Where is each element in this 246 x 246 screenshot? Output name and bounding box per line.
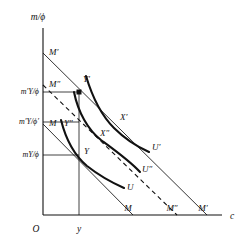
y-tick-label-mprime-Y-phi: m′Y/ϕ — [21, 87, 39, 96]
budget-line-label-M-prime: M′ — [197, 203, 208, 213]
y-axis-label: m/ϕ — [31, 12, 46, 22]
budget-line-M-prime-path — [43, 53, 207, 215]
y-tick-label-m-Y-phi: mY/ϕ — [22, 150, 39, 159]
point-label-Y-prime: Y′ — [83, 74, 91, 84]
x-axis-label: c — [230, 211, 235, 221]
x-tick-label-y: y — [76, 224, 82, 234]
diagram-canvas: m/ϕ c O m′Y/ϕ m′Y/ϕ′ mY/ϕ y M′ M″ M M M″… — [0, 0, 246, 246]
budget-line-M-path — [43, 124, 133, 215]
point-marker-Y-prime — [77, 90, 82, 95]
point-label-Y: Y — [84, 146, 90, 156]
curve-label-U-prime: U′ — [152, 142, 161, 152]
intercept-label-M: M — [48, 118, 57, 128]
budget-line-label-M-double-prime: M″ — [165, 203, 177, 213]
curve-label-U-double-prime: U″ — [142, 164, 152, 174]
origin-label: O — [33, 224, 40, 234]
economics-diagram: m/ϕ c O m′Y/ϕ m′Y/ϕ′ mY/ϕ y M′ M″ M M M″… — [0, 0, 246, 246]
curve-label-U: U — [127, 182, 134, 192]
point-label-X-double-prime: X″ — [99, 128, 109, 138]
y-tick-label-mprime-Y-phiprime: m′Y/ϕ′ — [19, 117, 39, 126]
intercept-label-M-double-prime: M″ — [48, 79, 60, 89]
point-label-Y-double-prime: Y″ — [64, 118, 73, 128]
curve-U-prime-path — [86, 76, 149, 152]
point-label-X-prime: X′ — [119, 112, 128, 122]
budget-line-label-M: M — [123, 203, 132, 213]
intercept-label-M-prime: M′ — [48, 47, 59, 57]
